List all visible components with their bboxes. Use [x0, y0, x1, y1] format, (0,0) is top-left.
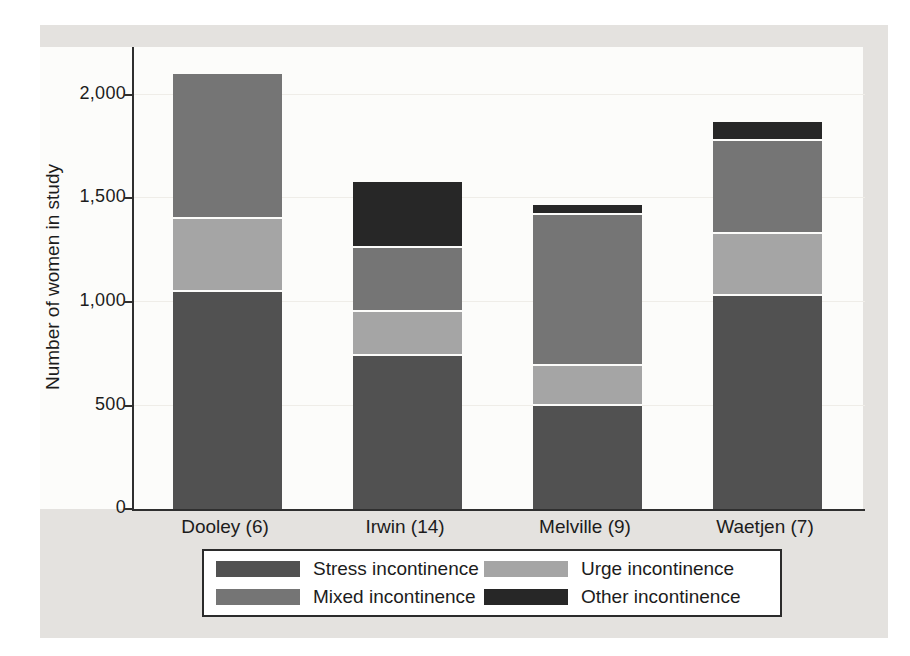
- y-tick-label: 1,000: [40, 289, 126, 311]
- bar-segment-stress-incontinence: [353, 356, 462, 509]
- bar-segment-other-incontinence: [713, 122, 822, 141]
- bar-segment-mixed-incontinence: [713, 141, 822, 234]
- plot-area: [132, 47, 865, 511]
- bar-segment-stress-incontinence: [713, 296, 822, 509]
- bar-segment-other-incontinence: [533, 205, 642, 215]
- legend-label: Stress incontinence: [313, 558, 479, 580]
- legend-swatch-other-incontinence: [484, 589, 568, 605]
- bar-segment-mixed-incontinence: [533, 215, 642, 366]
- bar-segment-urge-incontinence: [173, 219, 282, 291]
- legend-item-urge: Urge incontinence: [484, 558, 780, 580]
- y-tick-mark: [124, 405, 132, 407]
- bar-segment-urge-incontinence: [353, 312, 462, 355]
- x-axis-label: Dooley (6): [140, 515, 310, 539]
- y-tick-mark: [124, 94, 132, 96]
- legend-label: Mixed incontinence: [313, 586, 476, 608]
- x-axis-labels: Dooley (6)Irwin (14)Melville (9)Waetjen …: [132, 515, 863, 539]
- legend-label: Urge incontinence: [581, 558, 734, 580]
- legend: Stress incontinence Urge incontinence Mi…: [202, 549, 782, 617]
- legend-label: Other incontinence: [581, 586, 741, 608]
- legend-swatch-stress-incontinence: [216, 561, 300, 577]
- x-axis-label: Melville (9): [500, 515, 670, 539]
- legend-item-mixed: Mixed incontinence: [216, 586, 484, 608]
- bar-segment-mixed-incontinence: [353, 248, 462, 312]
- y-axis-tick-labels: 05001,0001,5002,000: [40, 47, 126, 507]
- y-tick-label: 1,500: [40, 185, 126, 207]
- bar-segment-urge-incontinence: [533, 366, 642, 405]
- legend-item-stress: Stress incontinence: [216, 558, 484, 580]
- x-axis-label: Waetjen (7): [680, 515, 850, 539]
- bar-segment-urge-incontinence: [713, 234, 822, 296]
- chart-figure: Number of women in study 05001,0001,5002…: [40, 25, 888, 638]
- y-tick-mark: [124, 508, 132, 510]
- y-tick-label: 2,000: [40, 82, 126, 104]
- y-tick-mark: [124, 197, 132, 199]
- legend-item-other: Other incontinence: [484, 586, 780, 608]
- y-tick-mark: [124, 301, 132, 303]
- y-tick-label: 0: [40, 496, 126, 518]
- y-tick-label: 500: [40, 393, 126, 415]
- bar-segment-other-incontinence: [353, 182, 462, 248]
- bar-segment-stress-incontinence: [173, 292, 282, 509]
- legend-swatch-urge-incontinence: [484, 561, 568, 577]
- legend-swatch-mixed-incontinence: [216, 589, 300, 605]
- bar-segment-stress-incontinence: [533, 406, 642, 510]
- bar-segment-mixed-incontinence: [173, 74, 282, 219]
- x-axis-label: Irwin (14): [320, 515, 490, 539]
